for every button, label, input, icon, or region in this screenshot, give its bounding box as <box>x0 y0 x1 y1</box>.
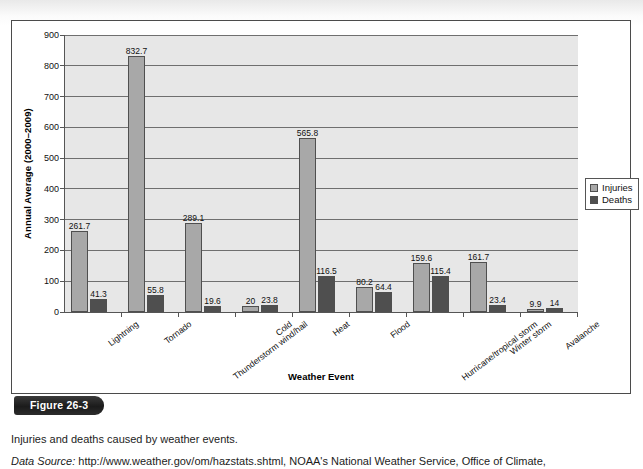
bar-deaths[interactable]: 64.4 <box>375 292 392 312</box>
bar-value-label: 161.7 <box>468 252 489 262</box>
x-axis-tick-label: Lightning <box>106 319 140 348</box>
bar-deaths[interactable]: 23.8 <box>261 305 278 312</box>
y-axis-tick-label: 700 <box>44 92 59 102</box>
y-axis-tick-mark <box>60 188 64 189</box>
x-axis-tick-mark <box>577 312 578 317</box>
bar-injuries[interactable]: 565.8 <box>299 138 316 312</box>
bar-value-label: 115.4 <box>430 266 451 276</box>
bar-value-label: 41.3 <box>90 289 107 299</box>
bar-value-label: 565.8 <box>297 128 318 138</box>
y-axis-tick-label: 400 <box>44 184 59 194</box>
legend-label: Deaths <box>602 194 632 206</box>
bar-group: 2023.8 <box>236 35 293 312</box>
bar-injuries[interactable]: 289.1 <box>185 223 202 312</box>
y-axis-tick-label: 600 <box>44 122 59 132</box>
legend-label: Injuries <box>602 182 633 194</box>
bar-value-label: 23.8 <box>261 295 278 305</box>
y-axis-tick-mark <box>60 127 64 128</box>
y-axis-tick-mark <box>60 250 64 251</box>
x-axis-tick-mark <box>178 312 179 317</box>
bar-injuries[interactable]: 9.9 <box>527 309 544 312</box>
bar-deaths[interactable]: 55.8 <box>147 295 164 312</box>
bar-value-label: 23.4 <box>489 295 506 305</box>
figure-source-line: Data Source: http://www.weather.gov/om/h… <box>11 454 636 469</box>
bar-value-label: 20 <box>246 296 255 306</box>
x-axis-tick-mark <box>349 312 350 317</box>
y-axis-tick-label: 800 <box>44 61 59 71</box>
bar-group: 289.119.6 <box>179 35 236 312</box>
x-axis-tick-mark <box>292 312 293 317</box>
chart-legend: Injuries Deaths <box>585 178 639 210</box>
bar-deaths[interactable]: 19.6 <box>204 306 221 312</box>
bar-value-label: 55.8 <box>147 285 164 295</box>
x-axis-title: Weather Event <box>12 371 630 382</box>
bar-group: 565.8116.5 <box>293 35 350 312</box>
bar-injuries[interactable]: 261.7 <box>71 231 88 312</box>
bar-deaths[interactable]: 116.5 <box>318 276 335 312</box>
bar-injuries[interactable]: 20 <box>242 306 259 312</box>
y-axis-tick-mark <box>60 158 64 159</box>
figure-caption: Injuries and deaths caused by weather ev… <box>11 432 636 447</box>
y-axis-tick-label: 300 <box>44 215 59 225</box>
legend-item-injuries: Injuries <box>590 182 633 194</box>
bar-group: 832.755.8 <box>122 35 179 312</box>
legend-swatch-icon <box>590 184 598 192</box>
bar-value-label: 80.2 <box>356 277 373 287</box>
bar-value-label: 19.6 <box>204 296 221 306</box>
source-text: http://www.weather.gov/om/hazstats.shtml… <box>75 455 546 467</box>
bar-deaths[interactable]: 23.4 <box>489 305 506 312</box>
y-axis-tick-label: 500 <box>44 153 59 163</box>
bar-group: 261.741.3 <box>65 35 122 312</box>
source-label: Data Source: <box>11 455 75 467</box>
y-axis-tick-mark <box>60 312 64 313</box>
chart-plot-area: 0100200300400500600700800900261.741.3832… <box>64 35 578 313</box>
bar-deaths[interactable]: 14 <box>546 308 563 312</box>
y-axis-tick-label: 200 <box>44 245 59 255</box>
bar-group: 159.6115.4 <box>407 35 464 312</box>
y-axis-tick-label: 900 <box>44 30 59 40</box>
y-axis-tick-label: 100 <box>44 276 59 286</box>
legend-swatch-icon <box>590 196 598 204</box>
bar-value-label: 289.1 <box>183 213 204 223</box>
figure-caption-block: Injuries and deaths caused by weather ev… <box>11 432 636 469</box>
y-axis-title: Annual Average (2000–2009) <box>20 35 34 312</box>
bar-value-label: 14 <box>550 298 559 308</box>
y-axis-title-text: Annual Average (2000–2009) <box>22 108 33 239</box>
bar-value-label: 64.4 <box>375 282 392 292</box>
x-axis-tick-mark <box>520 312 521 317</box>
y-axis-tick-mark <box>60 281 64 282</box>
bar-value-label: 832.7 <box>126 46 147 56</box>
x-axis-tick-label: Avalanche <box>563 319 601 351</box>
bar-injuries[interactable]: 159.6 <box>413 263 430 312</box>
y-axis-tick-mark <box>60 35 64 36</box>
bar-value-label: 261.7 <box>69 221 90 231</box>
x-axis-tick-label: Tornado <box>163 319 194 346</box>
bar-value-label: 116.5 <box>316 266 337 276</box>
bar-group: 161.723.4 <box>464 35 521 312</box>
bar-deaths[interactable]: 115.4 <box>432 276 449 312</box>
x-axis-tick-mark <box>463 312 464 317</box>
bar-group: 9.914 <box>521 35 578 312</box>
figure-number-badge: Figure 26-3 <box>14 396 104 415</box>
x-axis-tick-mark <box>235 312 236 317</box>
x-axis-tick-label: Heat <box>331 319 352 338</box>
y-axis-tick-mark <box>60 65 64 66</box>
bar-group: 80.264.4 <box>350 35 407 312</box>
bar-deaths[interactable]: 41.3 <box>90 299 107 312</box>
figure-panel: Annual Average (2000–2009) 0100200300400… <box>11 20 631 394</box>
x-axis-tick-label: Flood <box>389 319 412 340</box>
bar-injuries[interactable]: 80.2 <box>356 287 373 312</box>
bar-injuries[interactable]: 832.7 <box>128 56 145 312</box>
x-axis-tick-mark <box>406 312 407 317</box>
x-axis-tick-mark <box>121 312 122 317</box>
bar-value-label: 9.9 <box>530 299 542 309</box>
bar-injuries[interactable]: 161.7 <box>470 262 487 312</box>
legend-item-deaths: Deaths <box>590 194 633 206</box>
y-axis-tick-mark <box>60 96 64 97</box>
y-axis-tick-mark <box>60 219 64 220</box>
y-axis-tick-label: 0 <box>54 307 59 317</box>
bar-value-label: 159.6 <box>411 253 432 263</box>
